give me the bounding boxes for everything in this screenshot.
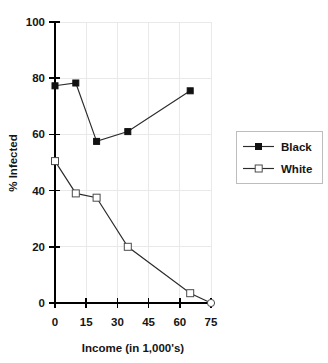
series-black-line [55,83,190,141]
y-tick-label: 60 [32,128,45,140]
y-tick-label: 40 [32,185,45,197]
data-point-black [125,129,131,135]
y-tick-labels: 100 80 60 40 20 0 [26,16,45,309]
x-tick-label: 45 [142,316,155,328]
data-point-white [52,158,59,165]
vertical-gridlines [86,22,211,303]
y-tick-label: 80 [32,72,45,84]
x-tick-label: 15 [80,316,93,328]
data-point-white [72,190,79,197]
chart-container: 100 80 60 40 20 0 0 15 30 45 60 75 Inc [0,0,328,363]
series-white [52,158,215,307]
horizontal-gridlines [55,22,211,247]
legend: Black White [236,131,322,183]
y-axis-title: % Infected [7,134,19,192]
data-point-black [94,138,100,144]
y-tick-label: 20 [32,241,45,253]
legend-marker-white-icon [255,165,262,172]
y-tick-label: 100 [26,16,45,28]
x-tick-label: 30 [111,316,124,328]
legend-label-black: Black [281,141,312,153]
data-point-white [124,243,131,250]
x-tick-labels: 0 15 30 45 60 75 [52,316,218,328]
y-tick-label: 0 [39,297,45,309]
x-axis [55,298,212,308]
x-axis-title: Income (in 1,000's) [82,342,185,354]
data-point-black [73,80,79,86]
x-tick-label: 0 [52,316,58,328]
legend-box [236,131,322,183]
data-point-black [52,83,58,89]
legend-marker-black-icon [256,144,262,150]
series-white-line [55,161,211,303]
line-chart: 100 80 60 40 20 0 0 15 30 45 60 75 Inc [0,0,328,363]
data-point-white [93,194,100,201]
x-tick-label: 60 [173,316,186,328]
data-point-black [187,88,193,94]
x-tick-label: 75 [205,316,218,328]
data-point-white [207,299,214,306]
legend-label-white: White [281,163,312,175]
data-point-white [187,290,194,297]
